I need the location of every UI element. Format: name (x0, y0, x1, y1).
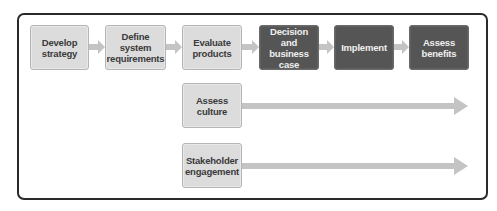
arrow-right-icon (89, 40, 105, 54)
step-label: Implement (341, 42, 387, 53)
step-decision-business-case: Decision and business case (259, 25, 319, 70)
activity-assess-culture: Assess culture (182, 83, 242, 128)
step-evaluate-products: Evaluate products (182, 25, 242, 70)
step-label: Evaluate products (185, 37, 239, 59)
activity-stakeholder-engagement: Stakeholder engagement (182, 143, 242, 188)
step-assess-benefits: Assess benefits (409, 25, 469, 70)
arrow-right-icon (394, 40, 409, 54)
step-label: Define system requirements (107, 31, 165, 64)
activity-label: Stakeholder engagement (185, 155, 239, 177)
long-arrow-right-icon (242, 157, 468, 175)
arrow-right-icon (319, 40, 334, 54)
step-label: Decision and business case (262, 26, 316, 70)
long-arrow-right-icon (242, 97, 468, 115)
activity-label: Assess culture (185, 95, 239, 117)
step-develop-strategy: Develop strategy (30, 25, 89, 70)
arrow-right-icon (166, 40, 182, 54)
step-label: Develop strategy (33, 37, 86, 59)
step-implement: Implement (334, 25, 394, 70)
arrow-right-icon (242, 40, 259, 54)
step-define-system-requirements: Define system requirements (105, 25, 166, 70)
step-label: Assess benefits (412, 37, 466, 59)
